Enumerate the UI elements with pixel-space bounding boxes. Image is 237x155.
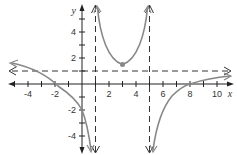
y-axis-down-arrow-icon (80, 147, 85, 154)
x-tick-label: 8 (187, 89, 192, 99)
x-tick-label: 4 (133, 89, 138, 99)
x-axis-right-arrow-icon (227, 82, 234, 87)
minimum-point (120, 62, 125, 67)
curve-arrows (10, 6, 231, 152)
y-axis-up-arrow-icon (80, 4, 85, 11)
asymptote-arrows (9, 5, 231, 153)
axes: -4 -2 2 4 6 8 10 x 4 2 -2 -4 y (8, 4, 234, 154)
right-branch (153, 76, 230, 150)
x-tick-label: -4 (24, 89, 32, 99)
middle-branch (98, 8, 148, 65)
y-tick-label: -2 (68, 105, 76, 115)
x-axis-label: x (227, 88, 233, 99)
x-tick-label: 2 (106, 89, 111, 99)
left-branch (12, 63, 91, 150)
asymptotes (12, 6, 228, 152)
graph: -4 -2 2 4 6 8 10 x 4 2 -2 -4 y (0, 0, 237, 155)
x-axis-left-arrow-icon (8, 82, 15, 87)
y-tick-label: -4 (68, 131, 76, 141)
x-tick-label: 6 (160, 89, 165, 99)
curves (12, 8, 230, 150)
x-tick-label: -2 (51, 89, 59, 99)
y-tick-label: 2 (71, 53, 76, 63)
y-axis-label: y (71, 5, 77, 16)
x-tick-label: 10 (212, 89, 222, 99)
y-tick-label: 4 (71, 27, 76, 37)
